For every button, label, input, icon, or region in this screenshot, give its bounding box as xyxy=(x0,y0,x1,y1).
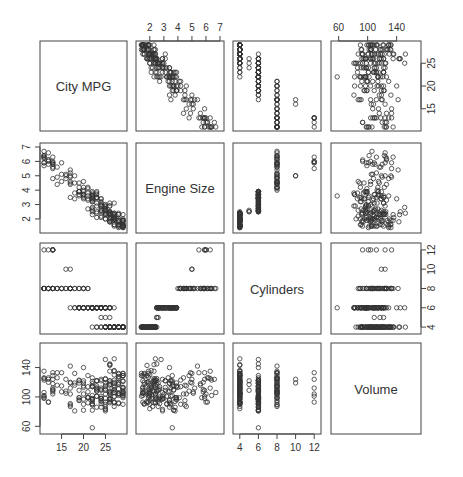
svg-text:10: 10 xyxy=(290,442,302,453)
svg-text:6: 6 xyxy=(256,442,262,453)
left-axis: 60100140 xyxy=(21,359,40,432)
svg-text:2: 2 xyxy=(147,22,153,33)
variable-label: Volume xyxy=(354,382,397,397)
svg-text:60: 60 xyxy=(21,420,32,432)
top-axis: 60100140 xyxy=(333,22,405,41)
svg-text:140: 140 xyxy=(388,22,405,33)
scatter-panel xyxy=(331,243,421,334)
svg-text:3: 3 xyxy=(21,201,32,207)
svg-text:5: 5 xyxy=(189,22,195,33)
scatterplot-matrix: City MPGEngine SizeCylindersVolume234567… xyxy=(0,0,463,477)
svg-text:5: 5 xyxy=(21,173,32,179)
svg-text:20: 20 xyxy=(426,80,437,92)
svg-text:2: 2 xyxy=(21,216,32,222)
svg-text:3: 3 xyxy=(161,22,167,33)
svg-text:15: 15 xyxy=(56,442,68,453)
svg-text:12: 12 xyxy=(309,442,321,453)
diagonal-label-panel: City MPG xyxy=(40,41,127,131)
scatter-panel xyxy=(136,343,224,434)
scatter-panel xyxy=(233,41,321,131)
svg-text:7: 7 xyxy=(21,144,32,150)
svg-text:8: 8 xyxy=(426,285,437,291)
diagonal-label-panel: Cylinders xyxy=(233,243,321,334)
scatter-panel xyxy=(233,143,321,233)
svg-text:4: 4 xyxy=(237,442,243,453)
svg-text:12: 12 xyxy=(426,244,437,256)
bottom-axis: 152025 xyxy=(56,434,111,453)
svg-text:10: 10 xyxy=(426,263,437,275)
svg-text:20: 20 xyxy=(78,442,90,453)
variable-label: Cylinders xyxy=(250,282,305,297)
svg-text:6: 6 xyxy=(426,305,437,311)
scatter-panel xyxy=(40,243,127,334)
svg-text:100: 100 xyxy=(21,388,32,405)
svg-text:15: 15 xyxy=(426,103,437,115)
svg-text:140: 140 xyxy=(21,359,32,376)
svg-text:4: 4 xyxy=(21,187,32,193)
svg-text:100: 100 xyxy=(359,22,376,33)
diagonal-label-panel: Volume xyxy=(331,343,421,434)
scatter-panel xyxy=(331,41,421,131)
svg-text:60: 60 xyxy=(333,22,345,33)
svg-text:6: 6 xyxy=(21,158,32,164)
svg-text:25: 25 xyxy=(426,57,437,69)
right-axis: 4681012 xyxy=(421,244,437,330)
diagonal-label-panel: Engine Size xyxy=(136,143,224,233)
svg-text:4: 4 xyxy=(175,22,181,33)
scatter-panel xyxy=(40,143,127,233)
variable-label: City MPG xyxy=(56,79,112,94)
right-axis: 152025 xyxy=(421,57,437,114)
variable-label: Engine Size xyxy=(145,181,214,196)
svg-text:7: 7 xyxy=(217,22,223,33)
scatter-panel xyxy=(233,343,321,434)
svg-text:6: 6 xyxy=(203,22,209,33)
scatter-panel xyxy=(331,143,421,233)
scatter-panel xyxy=(136,243,224,334)
svg-text:25: 25 xyxy=(100,442,112,453)
left-axis: 234567 xyxy=(21,144,40,222)
svg-text:8: 8 xyxy=(274,442,280,453)
scatter-panel xyxy=(136,41,224,131)
scatter-panel xyxy=(40,343,127,434)
svg-text:4: 4 xyxy=(426,324,437,330)
bottom-axis: 4681012 xyxy=(237,434,320,453)
top-axis: 234567 xyxy=(147,22,223,41)
